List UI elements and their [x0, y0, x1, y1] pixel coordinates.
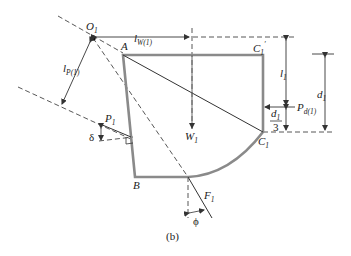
figure-caption: (b): [166, 230, 179, 243]
label-b: B: [133, 179, 140, 191]
failure-line-lower: [18, 87, 133, 140]
label-w1: W1: [185, 130, 198, 145]
svg-text:3: 3: [273, 121, 279, 133]
retaining-wall-diagram: O1 A B C1′ C1 W1 P1 F1 Pd(1) lW(1) lP(1)…: [0, 0, 351, 256]
svg-text:d1: d1: [271, 107, 280, 122]
label-phi: ϕ: [193, 215, 199, 227]
phi-angle-arrow: [189, 210, 204, 213]
label-delta: δ: [89, 131, 94, 143]
wall-outline: [123, 55, 263, 177]
label-lp1: lP(1): [63, 62, 80, 77]
label-lw1: lW(1): [134, 32, 153, 47]
dashed-lines: [18, 16, 335, 218]
radial-line-to-f1: [93, 38, 188, 177]
point-o1: [90, 35, 96, 41]
diagonal-a-c1: [123, 55, 263, 132]
label-d1-over-3: d1 3: [270, 107, 282, 133]
label-pd1: Pd(1): [296, 101, 317, 116]
label-a: A: [120, 40, 128, 52]
label-f1: F1: [203, 189, 214, 204]
label-c1: C1: [258, 135, 269, 150]
p1-force-line: [100, 124, 131, 137]
label-p1: P1: [104, 112, 115, 127]
